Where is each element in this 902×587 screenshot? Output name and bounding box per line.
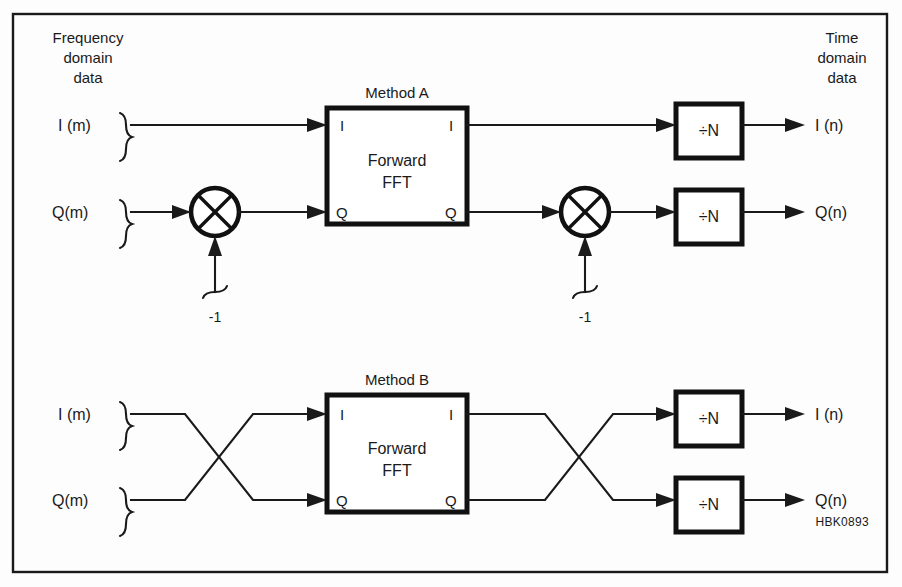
method-a-title: Method A <box>365 84 428 101</box>
block-diagram: Frequency domain data Time domain data M… <box>0 0 902 587</box>
method-b-arrow-q-in <box>307 493 327 507</box>
method-b-arrow-out-q <box>785 493 805 507</box>
method-a-fft-port-q-in: Q <box>336 204 348 221</box>
method-a-arrow-neg1-right <box>578 236 592 256</box>
method-b-wire-i-cross-down <box>131 414 310 500</box>
method-b-input-q-label: Q(m) <box>52 492 88 509</box>
method-a-arrow-q-to-fft <box>307 205 327 219</box>
input-group-label-line2: domain <box>63 49 112 66</box>
method-a-neg1-right-label: -1 <box>579 309 592 325</box>
method-a-arrow-neg1-left <box>208 236 222 256</box>
method-a-arrow-q-in <box>172 205 191 219</box>
output-group-label-line2: domain <box>817 49 866 66</box>
method-a-fft-port-q-out: Q <box>445 204 457 221</box>
method-a-fft-label-line1: Forward <box>368 152 427 169</box>
method-b-fft-label-line2: FFT <box>382 462 412 479</box>
method-b-wire-q-cross-up <box>131 414 310 500</box>
method-b-fft-label-line1: Forward <box>368 440 427 457</box>
method-a-arrow-out-q <box>785 205 805 219</box>
method-a-arrow-i-divn <box>656 118 676 132</box>
method-b-input-i-brace <box>120 402 132 450</box>
output-group-label-line3: data <box>827 69 857 86</box>
method-b-input-i-label: I (m) <box>58 406 91 423</box>
method-b-output-q-label: Q(n) <box>815 492 847 509</box>
method-b-fft-port-q-in: Q <box>336 492 348 509</box>
method-b-fft-port-i-out: I <box>449 406 453 423</box>
method-b-arrow-i-in <box>307 407 327 421</box>
method-a-input-q-label: Q(m) <box>52 204 88 221</box>
output-group-label-line1: Time <box>826 29 859 46</box>
method-b-input-q-brace <box>120 488 132 536</box>
method-a-divn-i-label: ÷N <box>699 122 719 139</box>
method-a-input-i-label: I (m) <box>58 117 91 134</box>
method-b-divn-q-label: ÷N <box>699 496 719 513</box>
method-a-arrow-q-mult2 <box>542 205 561 219</box>
method-b-wire-q-cross-out <box>467 414 659 500</box>
method-b-output-i-label: I (n) <box>815 406 843 423</box>
method-a-arrow-i-in <box>307 118 327 132</box>
input-group-label-line1: Frequency <box>53 29 124 46</box>
method-b-fft-port-q-out: Q <box>445 492 457 509</box>
method-a-fft-label-line2: FFT <box>382 174 412 191</box>
method-a-arrow-q-divn <box>656 205 676 219</box>
method-a-input-i-brace <box>120 113 132 161</box>
method-a-divn-q-label: ÷N <box>699 208 719 225</box>
method-b-arrow-out-i <box>785 407 805 421</box>
method-b-arrow-divn-i <box>656 407 676 421</box>
method-b-wire-i-cross-out <box>467 414 659 500</box>
method-b-fft-port-i-in: I <box>340 406 344 423</box>
method-a-arrow-out-i <box>785 118 805 132</box>
method-a-output-q-label: Q(n) <box>815 204 847 221</box>
method-a-fft-port-i-in: I <box>340 117 344 134</box>
method-a-fft-port-i-out: I <box>449 117 453 134</box>
method-b-title: Method B <box>365 371 429 388</box>
method-a-input-q-brace <box>120 200 132 248</box>
method-b-divn-i-label: ÷N <box>699 410 719 427</box>
method-a-neg1-left-label: -1 <box>209 309 222 325</box>
method-a-output-i-label: I (n) <box>815 117 843 134</box>
method-b-arrow-divn-q <box>656 493 676 507</box>
input-group-label-line3: data <box>73 69 103 86</box>
figure-caption <box>16 580 876 587</box>
figure-corner-code: HBK0893 <box>816 515 869 529</box>
figure-container: Frequency domain data Time domain data M… <box>0 0 902 587</box>
